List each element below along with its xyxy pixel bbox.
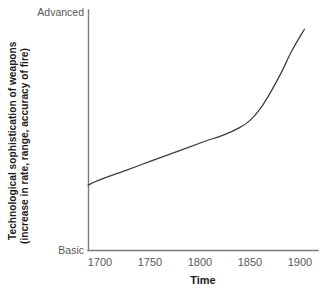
x-axis-title: Time [190,274,215,286]
x-tick-label-1900: 1900 [288,256,312,268]
x-tick-label-1800: 1800 [188,256,212,268]
chart-container: Advanced Basic 1700 1750 1800 1850 1900 … [0,0,329,297]
y-axis-title-line2: (increase in rate, range, accuracy of fi… [19,48,30,244]
x-tick-label-1850: 1850 [238,256,262,268]
y-axis-max-label: Advanced [37,6,84,18]
x-tick-label-1700: 1700 [88,256,112,268]
line-chart: Advanced Basic 1700 1750 1800 1850 1900 … [0,0,329,297]
y-axis-min-label: Basic [58,244,84,256]
y-axis-title-line1: Technological sophistication of weapons [7,41,18,240]
data-series-line [88,29,304,185]
x-tick-label-1750: 1750 [138,256,162,268]
